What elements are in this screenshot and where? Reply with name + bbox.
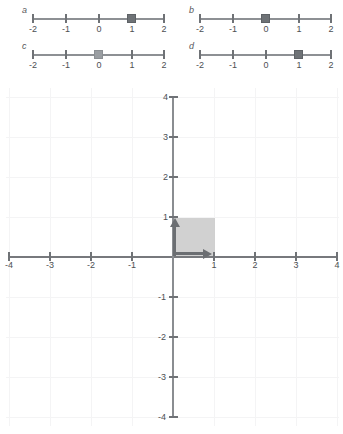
ytick-3	[169, 136, 178, 138]
vector-e2-shaft	[173, 226, 176, 256]
number-line-b: b -2 -1 0 1 2	[189, 8, 339, 38]
tick-b--2	[199, 14, 201, 23]
ytick--3	[169, 376, 178, 378]
tick-a--1	[65, 14, 67, 23]
tick-a--2	[32, 14, 34, 23]
ticklabel-d-1: 1	[292, 60, 306, 70]
ticklabel-d--1: -1	[226, 60, 240, 70]
ticklabel-d-0: 0	[259, 60, 273, 70]
tick-d-0	[265, 50, 267, 59]
xlabel-3: 3	[288, 260, 304, 270]
tick-c-1	[131, 50, 133, 59]
ticklabel-a-0: 0	[92, 24, 106, 34]
number-line-b-label: b	[189, 6, 194, 15]
ylabel--2: -2	[152, 332, 166, 342]
tick-c--2	[32, 50, 34, 59]
marker-c	[94, 50, 103, 59]
ticklabel-b-2: 2	[324, 24, 338, 34]
tick-b--1	[232, 14, 234, 23]
ticklabel-c-2: 2	[157, 60, 171, 70]
cartesian-plot: -4 -3 -2 -1 1 2 3 4 4 3 2 1 -1 -2 -3 -4	[0, 80, 343, 434]
tick-b-1	[298, 14, 300, 23]
ytick-4	[169, 96, 178, 98]
ticklabel-c-1: 1	[125, 60, 139, 70]
number-lines-panel: a -2 -1 0 1 2 b -2 -1 0 1	[0, 0, 343, 80]
tick-d-2	[330, 50, 332, 59]
ylabel-4: 4	[154, 92, 168, 102]
vector-e2-arrowhead-icon	[170, 218, 180, 227]
ticklabel-d-2: 2	[324, 60, 338, 70]
marker-a	[127, 14, 136, 23]
ylabel--3: -3	[152, 372, 166, 382]
number-line-a: a -2 -1 0 1 2	[22, 8, 172, 38]
tick-d--1	[232, 50, 234, 59]
number-line-d: d -2 -1 0 1 2	[189, 44, 339, 74]
xlabel-2: 2	[247, 260, 263, 270]
xlabel--1: -1	[124, 260, 140, 270]
xlabel--4: -4	[1, 260, 17, 270]
figure-root: a -2 -1 0 1 2 b -2 -1 0 1	[0, 0, 343, 434]
xlabel--2: -2	[83, 260, 99, 270]
ytick--4	[169, 416, 178, 418]
marker-b	[261, 14, 270, 23]
number-line-d-label: d	[189, 42, 194, 51]
xlabel-1: 1	[206, 260, 222, 270]
tick-c--1	[65, 50, 67, 59]
marker-d	[294, 50, 303, 59]
ylabel-2: 2	[154, 172, 168, 182]
ytick-2	[169, 176, 178, 178]
ylabel-3: 3	[154, 132, 168, 142]
ticklabel-b-0: 0	[259, 24, 273, 34]
ytick--2	[169, 336, 178, 338]
ticklabel-b--1: -1	[226, 24, 240, 34]
tick-d--2	[199, 50, 201, 59]
number-line-c-label: c	[22, 42, 27, 51]
ticklabel-d--2: -2	[193, 60, 207, 70]
tick-a-2	[163, 14, 165, 23]
ticklabel-a-1: 1	[125, 24, 139, 34]
number-line-a-label: a	[22, 6, 27, 15]
xlabel--3: -3	[42, 260, 58, 270]
ytick--1	[169, 296, 178, 298]
ticklabel-c--1: -1	[59, 60, 73, 70]
ticklabel-c-0: 0	[92, 60, 106, 70]
ticklabel-a--2: -2	[26, 24, 40, 34]
ticklabel-b--2: -2	[193, 24, 207, 34]
tick-a-0	[98, 14, 100, 23]
y-axis	[172, 96, 174, 418]
ticklabel-a--1: -1	[59, 24, 73, 34]
ticklabel-c--2: -2	[26, 60, 40, 70]
tick-c-2	[163, 50, 165, 59]
tick-b-2	[330, 14, 332, 23]
ylabel--4: -4	[152, 412, 166, 422]
vector-e1-shaft	[173, 252, 205, 255]
xlabel-4: 4	[329, 260, 343, 270]
ticklabel-b-1: 1	[292, 24, 306, 34]
ylabel-1: 1	[154, 212, 168, 222]
vector-e1-arrowhead-icon	[203, 249, 212, 259]
ticklabel-a-2: 2	[157, 24, 171, 34]
ylabel--1: -1	[152, 292, 166, 302]
number-line-c: c -2 -1 0 1 2	[22, 44, 172, 74]
